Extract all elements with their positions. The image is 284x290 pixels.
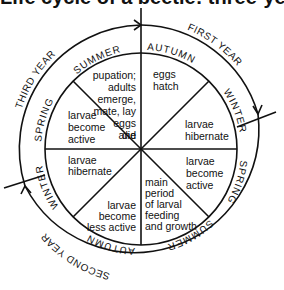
svg-text:hibernate: hibernate xyxy=(68,165,112,177)
life-cycle-diagram: pupation; adults emerge, mate, lay eggs … xyxy=(0,0,284,290)
svg-text:die: die xyxy=(122,129,136,141)
segment-autumn-1: eggs hatch xyxy=(153,68,179,92)
svg-text:eggs: eggs xyxy=(153,68,176,80)
svg-text:mate, lay: mate, lay xyxy=(93,105,136,117)
svg-text:adults: adults xyxy=(108,81,136,93)
svg-text:become: become xyxy=(186,167,224,179)
svg-text:larvae: larvae xyxy=(68,109,97,121)
svg-text:pupation;: pupation; xyxy=(93,69,136,81)
svg-text:eggs: eggs xyxy=(113,117,136,129)
svg-text:active: active xyxy=(186,179,214,191)
svg-text:hatch: hatch xyxy=(153,80,179,92)
svg-text:and growth: and growth xyxy=(145,220,197,232)
segment-winter-1: larvae hibernate xyxy=(185,118,229,142)
svg-text:emerge,: emerge, xyxy=(97,93,136,105)
svg-text:active: active xyxy=(68,133,96,145)
svg-text:larvae: larvae xyxy=(186,155,215,167)
svg-text:become: become xyxy=(68,121,106,133)
svg-text:hibernate: hibernate xyxy=(185,130,229,142)
svg-text:larvae: larvae xyxy=(185,118,214,130)
season-spring-left: SPRING xyxy=(32,96,55,143)
segment-autumn-2: larvae become less active xyxy=(87,199,136,233)
segment-winter-2: larvae hibernate xyxy=(68,154,112,177)
svg-text:less active: less active xyxy=(87,221,136,233)
segment-spring-2: larvae become active xyxy=(186,155,224,191)
arrow-right-icon xyxy=(253,105,262,114)
